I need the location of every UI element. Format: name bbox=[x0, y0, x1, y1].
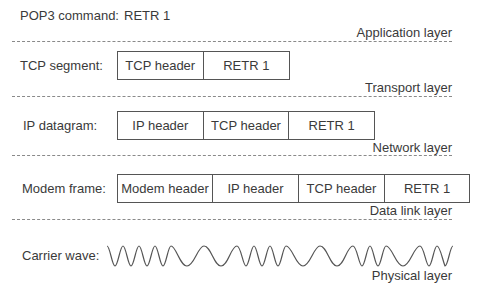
application-layer-label: Application layer bbox=[357, 25, 452, 40]
carrier-wave-label: Carrier wave: bbox=[22, 248, 99, 263]
pop3-command-payload: RETR 1 bbox=[124, 8, 170, 23]
network-layer-label: Network layer bbox=[373, 140, 452, 155]
physical-layer-label: Physical layer bbox=[372, 268, 452, 283]
tcp-header-cell: TCP header bbox=[118, 52, 204, 79]
ip-datagram-box: IP header TCP header RETR 1 bbox=[117, 111, 375, 140]
carrier-wave-icon bbox=[100, 238, 460, 272]
modem-frame-box: Modem header IP header TCP header RETR 1 bbox=[117, 174, 470, 203]
payload-cell: RETR 1 bbox=[385, 175, 469, 202]
layer-divider bbox=[12, 155, 452, 156]
layer-divider bbox=[12, 96, 452, 97]
datalink-layer-label: Data link layer bbox=[370, 203, 452, 218]
ip-header-cell: IP header bbox=[213, 175, 299, 202]
modem-header-cell: Modem header bbox=[118, 175, 213, 202]
layer-divider bbox=[12, 219, 452, 220]
tcp-header-cell: TCP header bbox=[299, 175, 385, 202]
tcp-header-cell: TCP header bbox=[204, 112, 290, 139]
payload-cell: RETR 1 bbox=[204, 52, 290, 79]
payload-cell: RETR 1 bbox=[289, 112, 374, 139]
modem-frame-label: Modem frame: bbox=[22, 181, 106, 196]
transport-layer-label: Transport layer bbox=[365, 80, 452, 95]
tcp-segment-label: TCP segment: bbox=[20, 58, 103, 73]
ip-datagram-label: IP datagram: bbox=[23, 118, 97, 133]
tcp-segment-box: TCP header RETR 1 bbox=[117, 51, 290, 80]
layer-divider bbox=[12, 41, 452, 42]
pop3-command-label: POP3 command: bbox=[20, 8, 119, 23]
ip-header-cell: IP header bbox=[118, 112, 204, 139]
